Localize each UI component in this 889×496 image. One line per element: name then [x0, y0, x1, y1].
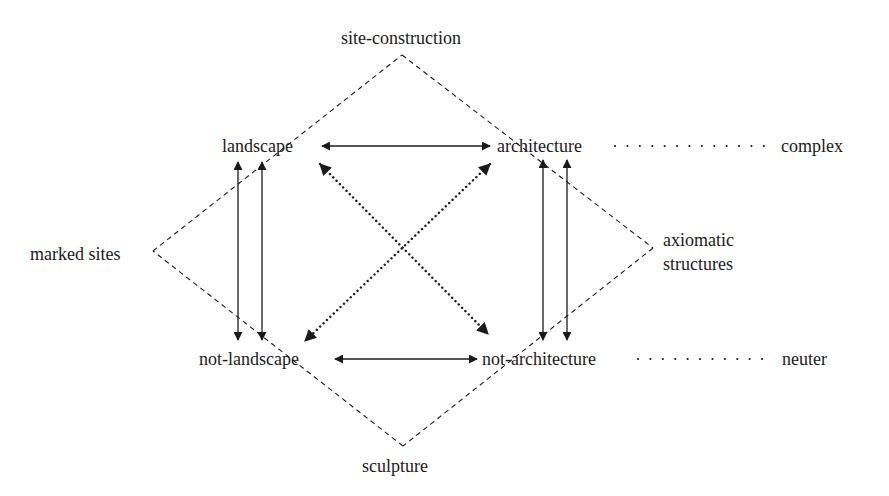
- dashed-diamond: [153, 55, 653, 446]
- node-not-architecture: not-architecture: [482, 349, 596, 369]
- arrows-landscape-notlandscape: [238, 162, 262, 340]
- diagram-lines: [0, 0, 889, 496]
- term-neuter: neuter: [782, 349, 827, 369]
- label-axiomatic-structures: axiomatic structures: [663, 228, 734, 276]
- node-not-landscape: not-landscape: [199, 349, 299, 369]
- label-marked-sites: marked sites: [30, 244, 120, 264]
- node-architecture: architecture: [497, 136, 582, 156]
- label-axiomatic-line1: axiomatic: [663, 228, 734, 252]
- node-landscape: landscape: [222, 136, 293, 156]
- label-site-construction: site-construction: [341, 28, 461, 48]
- label-sculpture: sculpture: [362, 456, 428, 476]
- dotted-diagonals: [305, 164, 490, 341]
- diagram-canvas: site-construction landscape architecture…: [0, 0, 889, 496]
- diamond-edge-right-bottom: [403, 248, 653, 446]
- term-complex: complex: [781, 136, 843, 156]
- arrows-architecture-notarchitecture: [543, 160, 567, 340]
- label-axiomatic-line2: structures: [663, 252, 734, 276]
- dotted-arrow-architecture-notlandscape: [305, 164, 490, 341]
